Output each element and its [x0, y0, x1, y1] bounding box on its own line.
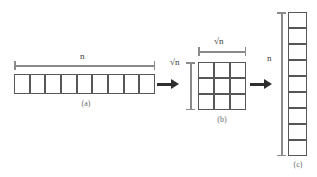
- panel-a-cell: [92, 74, 108, 94]
- panel-b-dimension-tick-top-left: [198, 47, 200, 56]
- panel-c-cell: [288, 28, 307, 44]
- panel-b-cell: [230, 94, 246, 110]
- panel-a-dimension-line: [14, 65, 155, 67]
- panel-b-dimension-line-left: [190, 62, 192, 110]
- panel-c-caption: (c): [280, 160, 316, 169]
- panel-a-dimension-tick-left: [14, 61, 16, 70]
- panel-b-cell: [198, 94, 214, 110]
- panel-a-cell: [124, 74, 140, 94]
- panel-b-caption: (b): [204, 115, 240, 124]
- panel-b-radicand-left: n: [175, 57, 180, 67]
- panel-c-dimension-tick-bottom: [277, 155, 286, 157]
- panel-b-cell: [198, 62, 214, 78]
- panel-b-dimension-tick-left-bottom: [186, 109, 195, 111]
- panel-c-cell: [288, 108, 307, 124]
- panel-a-cell-row: [14, 74, 155, 94]
- panel-c-cell: [288, 60, 307, 76]
- panel-c-dimension-tick-top: [277, 12, 286, 14]
- panel-c-cell: [288, 12, 307, 28]
- panel-b-cell: [214, 62, 230, 78]
- panel-b-cell: [214, 78, 230, 94]
- panel-c-vertical-array: n (c): [255, 0, 317, 177]
- panel-c-cell: [288, 76, 307, 92]
- panel-b-dimension-tick-top-right: [245, 47, 247, 56]
- panel-b-cell: [230, 62, 246, 78]
- panel-b-dimension-line-top: [198, 51, 246, 53]
- panel-a-cell: [61, 74, 77, 94]
- panel-c-cell: [288, 124, 307, 140]
- panel-a-caption: (a): [68, 99, 104, 108]
- panel-b-square-grid: √n √n (b): [160, 0, 255, 177]
- panel-b-cell: [230, 78, 246, 94]
- panel-a-dimension-tick-right: [154, 61, 156, 70]
- panel-a-horizontal-array: n (a): [0, 0, 160, 177]
- panel-a-cell: [30, 74, 46, 94]
- panel-b-dimension-label-top: √n: [214, 36, 223, 46]
- panel-b-dimension-label-left: √n: [170, 57, 179, 67]
- panel-a-cell: [139, 74, 155, 94]
- figure-array-reshaping: n (a) √n √n (b): [0, 0, 317, 177]
- panel-a-cell: [14, 74, 30, 94]
- panel-a-cell: [77, 74, 93, 94]
- panel-b-dimension-tick-left-top: [186, 62, 195, 64]
- panel-b-cell-grid: [198, 62, 246, 110]
- panel-c-dimension-label: n: [267, 53, 272, 63]
- panel-a-dimension-label: n: [80, 51, 85, 61]
- panel-b-radicand-top: n: [219, 36, 224, 46]
- panel-c-cell: [288, 92, 307, 108]
- panel-b-cell: [214, 94, 230, 110]
- panel-c-cell: [288, 140, 307, 156]
- panel-c-dimension-line: [281, 12, 283, 156]
- panel-a-cell: [108, 74, 124, 94]
- panel-c-cell: [288, 44, 307, 60]
- panel-b-cell: [198, 78, 214, 94]
- panel-a-cell: [45, 74, 61, 94]
- panel-c-cell-column: [288, 12, 307, 156]
